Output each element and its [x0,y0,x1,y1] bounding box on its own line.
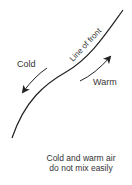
front-line [12,10,123,138]
caption-line-2: do not mix easily [30,163,132,173]
warm-label: Warm [93,78,117,87]
cold-label: Cold [17,60,36,69]
caption-line-1: Cold and warm air [30,153,132,163]
caption: Cold and warm air do not mix easily [30,153,132,173]
front-line-label: Line of front [68,26,104,64]
